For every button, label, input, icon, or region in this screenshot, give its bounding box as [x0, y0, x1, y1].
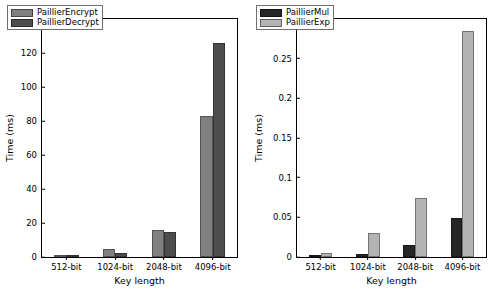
x-tick-right: 1024-bit: [350, 257, 386, 272]
y-tick-left: 120: [21, 49, 42, 58]
bar-right: [451, 218, 463, 257]
legend-swatch-icon: [260, 9, 282, 17]
bar-left: [200, 116, 212, 257]
x-tick-right: 2048-bit: [397, 257, 433, 272]
bar-right: [415, 198, 427, 257]
y-tick-right: 0.25: [273, 54, 297, 63]
legend-label: PaillierEncrypt: [37, 8, 98, 17]
legend-swatch-icon: [11, 19, 33, 27]
x-axis-label-right: Key length: [366, 275, 417, 286]
legend-item[interactable]: PaillierMul: [260, 8, 330, 17]
y-tick-right: 0.2: [278, 94, 297, 103]
legend-label: PaillierExp: [286, 18, 330, 27]
y-tick-left: 80: [26, 117, 42, 126]
x-tick-left: 2048-bit: [146, 257, 182, 272]
bar-left: [164, 232, 176, 258]
figure: Time (ms) Key length 0204060801001201405…: [0, 0, 498, 300]
bar-right: [368, 233, 380, 257]
y-tick-left: 20: [26, 219, 42, 228]
plot-area-right: Time (ms) Key length 00.050.10.150.20.25…: [296, 18, 487, 258]
x-tick-right: 4096-bit: [444, 257, 480, 272]
bar-left: [103, 249, 115, 257]
y-tick-left: 40: [26, 185, 42, 194]
x-axis-label-left: Key length: [114, 275, 165, 286]
y-axis-label-right: Time (ms): [253, 114, 264, 162]
y-tick-left: 0: [32, 253, 42, 262]
legend-swatch-icon: [260, 19, 282, 27]
legend-item[interactable]: PaillierDecrypt: [11, 18, 99, 27]
x-tick-left: 512-bit: [51, 257, 81, 272]
bars-left: [42, 19, 237, 257]
chart-panel-right: Time (ms) Key length 00.050.10.150.20.25…: [249, 0, 498, 300]
y-tick-right: 0.15: [273, 134, 297, 143]
chart-panel-left: Time (ms) Key length 0204060801001201405…: [0, 0, 249, 300]
y-tick-right: 0: [287, 253, 297, 262]
legend-left: PaillierEncryptPaillierDecrypt: [7, 5, 103, 30]
legend-swatch-icon: [11, 9, 33, 17]
legend-label: PaillierMul: [286, 8, 329, 17]
x-tick-left: 4096-bit: [195, 257, 231, 272]
y-tick-right: 0.1: [278, 173, 297, 182]
legend-item[interactable]: PaillierExp: [260, 18, 330, 27]
legend-item[interactable]: PaillierEncrypt: [11, 8, 99, 17]
bars-right: [297, 19, 486, 257]
y-tick-left: 60: [26, 151, 42, 160]
legend-right: PaillierMulPaillierExp: [256, 5, 334, 30]
bar-right: [462, 31, 474, 257]
bar-right: [403, 245, 415, 257]
legend-label: PaillierDecrypt: [37, 18, 99, 27]
x-tick-left: 1024-bit: [97, 257, 133, 272]
y-tick-right: 0.05: [273, 213, 297, 222]
bar-left: [213, 43, 225, 257]
y-tick-left: 100: [21, 83, 42, 92]
y-axis-label-left: Time (ms): [4, 114, 15, 162]
bar-left: [152, 230, 164, 257]
x-tick-right: 512-bit: [305, 257, 335, 272]
plot-area-left: Time (ms) Key length 0204060801001201405…: [41, 18, 238, 258]
